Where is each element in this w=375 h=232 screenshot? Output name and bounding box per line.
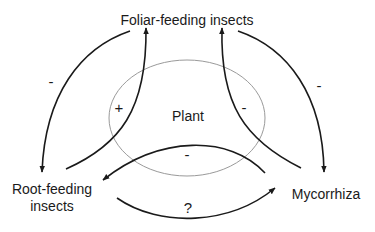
sign-root-to-foliar: + — [115, 99, 124, 116]
sign-mycorrhiza-to-foliar: - — [242, 99, 247, 116]
sign-foliar-to-root: - — [49, 73, 54, 90]
sign-root-to-mycorrhiza: ? — [184, 199, 192, 216]
node-root-feeding-insects-line2: insects — [30, 198, 74, 214]
interaction-diagram: Foliar-feeding insects Plant Root-feedin… — [0, 0, 375, 232]
node-foliar-feeding-insects: Foliar-feeding insects — [120, 12, 253, 28]
node-root-feeding-insects-line1: Root-feeding — [12, 181, 92, 197]
edge-mycorrhiza-to-foliar — [222, 28, 301, 168]
sign-foliar-to-mycorrhiza: - — [317, 77, 322, 94]
node-plant: Plant — [172, 108, 204, 124]
edge-root-to-foliar — [66, 28, 146, 169]
edge-root-to-mycorrhiza — [117, 188, 275, 218]
node-mycorrhiza: Mycorrhiza — [292, 186, 361, 202]
sign-mycorrhiza-to-root: - — [185, 146, 190, 163]
